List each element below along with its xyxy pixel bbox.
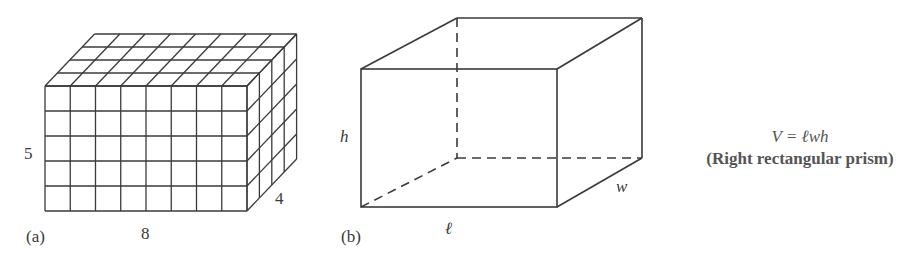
length-label-b: ℓ: [445, 220, 452, 237]
rectangular-prism-outline: [361, 18, 642, 207]
length-label-a: 8: [141, 225, 150, 242]
figure-b-label: (b): [341, 228, 361, 245]
width-label-b: w: [616, 178, 627, 195]
volume-formula: V = ℓwh (Right rectangular prism): [700, 126, 900, 170]
depth-label-a: 4: [275, 190, 284, 207]
height-label-a: 5: [24, 145, 33, 162]
volume-equation: V = ℓwh: [700, 126, 900, 148]
formula-caption: (Right rectangular prism): [700, 148, 900, 170]
height-label-b: h: [340, 128, 349, 145]
unit-cube-prism: [45, 34, 297, 211]
figure-a-label: (a): [26, 228, 45, 245]
